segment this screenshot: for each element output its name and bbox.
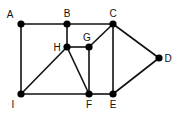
node-label-d: D bbox=[164, 53, 171, 64]
node-label-f: F bbox=[86, 99, 92, 110]
node-label-g: G bbox=[83, 32, 91, 43]
edge-c-d bbox=[113, 24, 159, 58]
node-label-a: A bbox=[7, 9, 14, 20]
node-c bbox=[109, 20, 116, 27]
node-label-h: H bbox=[53, 42, 60, 53]
node-e bbox=[109, 90, 116, 97]
node-i bbox=[17, 90, 24, 97]
node-g bbox=[85, 43, 92, 50]
node-b bbox=[63, 20, 70, 27]
node-label-c: C bbox=[109, 8, 116, 19]
edge-h-f bbox=[67, 47, 89, 94]
node-label-b: B bbox=[64, 8, 71, 19]
node-label-e: E bbox=[110, 99, 117, 110]
edge-g-c bbox=[89, 24, 113, 47]
node-f bbox=[85, 90, 92, 97]
node-label-i: I bbox=[12, 99, 15, 110]
node-a bbox=[17, 20, 24, 27]
graph-diagram: ABCDEFGHI bbox=[0, 0, 176, 115]
node-d bbox=[155, 54, 162, 61]
edge-i-h bbox=[21, 47, 67, 94]
node-h bbox=[63, 43, 70, 50]
edge-d-e bbox=[113, 58, 159, 94]
